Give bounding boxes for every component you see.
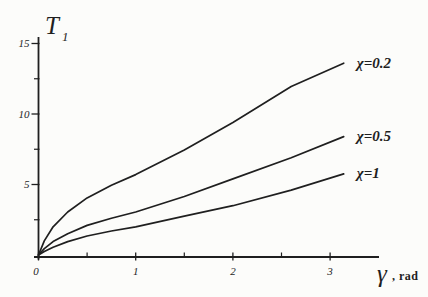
- x-axis-title-unit: , rad: [392, 269, 419, 283]
- curve-chi-1: [39, 174, 344, 255]
- x-axis-title: γ: [377, 260, 388, 287]
- x-tick-label: 0: [33, 265, 39, 277]
- series-label-chi-1: χ=1: [355, 165, 380, 181]
- x-tick-label: 1: [133, 265, 139, 277]
- y-tick-label: 5: [24, 178, 30, 190]
- y-axis-title: T: [45, 12, 61, 39]
- y-tick-label: 15: [19, 37, 31, 49]
- x-tick-label: 2: [230, 265, 236, 277]
- figure: 012351015 χ=0.2χ=0.5χ=1 T 1 γ , rad: [0, 0, 428, 297]
- x-tick-label: 3: [326, 265, 333, 277]
- y-axis-title-subscript: 1: [62, 29, 69, 44]
- curves-layer: [39, 63, 344, 255]
- line-chart: 012351015 χ=0.2χ=0.5χ=1 T 1 γ , rad: [0, 0, 428, 297]
- series-label-chi-0.2: χ=0.2: [355, 55, 392, 71]
- ticks-layer: 012351015: [19, 37, 334, 277]
- series-labels-layer: χ=0.2χ=0.5χ=1: [355, 55, 392, 182]
- y-tick-label: 10: [19, 108, 31, 120]
- series-label-chi-0.5: χ=0.5: [355, 128, 392, 144]
